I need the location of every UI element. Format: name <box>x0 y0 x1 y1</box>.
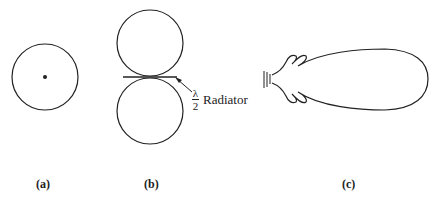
panel-a-pattern <box>12 44 78 110</box>
radiator-label: Radiator <box>203 92 248 108</box>
fraction-numerator: λ <box>193 87 198 99</box>
half-wavelength-fraction: λ 2 <box>192 88 199 111</box>
panel-c-label: (c) <box>342 177 355 192</box>
panel-b-label: (b) <box>144 177 159 192</box>
panel-b-pattern <box>117 10 192 144</box>
panel-c-pattern <box>264 49 428 110</box>
fraction-denominator: 2 <box>193 100 199 112</box>
panel-a-label: (a) <box>36 177 50 192</box>
